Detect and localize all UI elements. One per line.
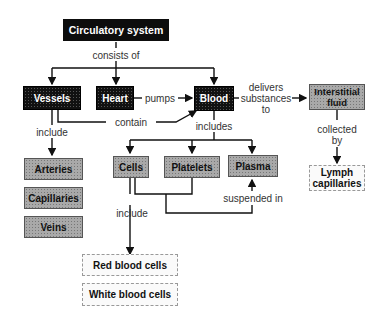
vessels-node: Vessels [23, 86, 81, 110]
red-blood-cells-node: Red blood cells [82, 254, 178, 276]
circulatory-system-node: Circulatory system [63, 19, 169, 41]
delivers-label-line2: substances [240, 93, 292, 104]
include-vessels-label: include [32, 127, 72, 138]
heart-node: Heart [96, 86, 134, 110]
veins-node: Veins [24, 216, 83, 238]
interstitial-fluid-node: Interstitial fluid [309, 84, 365, 110]
blood-node: Blood [194, 86, 234, 111]
contain-label: contain [108, 117, 154, 128]
cells-node: Cells [113, 156, 149, 178]
pumps-label: pumps [143, 93, 177, 104]
collected-label-line2: by [312, 135, 362, 146]
includes-blood-label: includes [192, 121, 236, 132]
platelets-node: Platelets [164, 156, 220, 178]
plasma-node: Plasma [228, 155, 278, 177]
delivers-label-line1: delivers [240, 82, 292, 93]
collected-label-line1: collected [312, 124, 362, 135]
capillaries-node: Capillaries [24, 187, 83, 209]
white-blood-cells-node: White blood cells [82, 283, 178, 306]
suspended-in-label: suspended in [220, 193, 286, 204]
lymph-capillaries-node: Lymph capillaries [309, 165, 365, 191]
include-cells-label: include [112, 208, 152, 219]
delivers-label-line3: to [240, 104, 292, 115]
arteries-node: Arteries [24, 158, 83, 180]
consists-of-label: consists of [86, 50, 146, 61]
